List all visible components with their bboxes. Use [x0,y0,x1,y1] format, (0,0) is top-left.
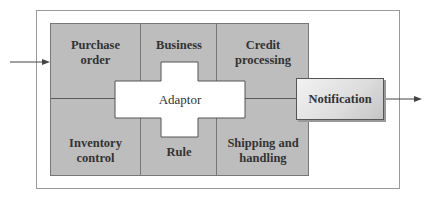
arrows [0,0,436,202]
input-arrowhead-icon [42,59,50,65]
output-arrowhead-icon [414,96,422,102]
output-arrow [386,96,422,102]
input-arrow [10,59,50,65]
